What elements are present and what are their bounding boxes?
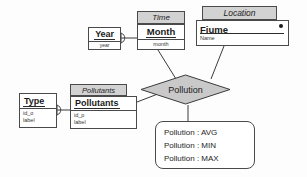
- note-box-pollution-aggregates[interactable]: Pollution : AVG Pollution : MIN Pollutio…: [155, 121, 255, 169]
- entity-type[interactable]: Type id_o label: [19, 93, 57, 128]
- note-line-min: Pollution : MIN: [164, 139, 254, 152]
- entity-pollutants-tab[interactable]: Pollutants: [70, 84, 127, 96]
- relationship-pollution[interactable]: Pollution: [140, 74, 231, 105]
- connector-type-pollutants: [57, 105, 70, 115]
- entity-month-attribute: month: [138, 40, 184, 47]
- entity-pollutants-title: Pollutants: [71, 97, 136, 109]
- er-diagram-canvas: Year year Time Month month Location Fium…: [0, 0, 307, 177]
- entity-month[interactable]: Month month: [137, 24, 185, 50]
- entity-year-attribute: year: [89, 42, 120, 49]
- entity-type-attribute-label: label: [20, 116, 56, 123]
- filled-dot-icon: [279, 24, 283, 28]
- entity-type-attribute-ido: id_o: [20, 109, 56, 116]
- entity-fiume-attribute: Name: [197, 34, 288, 41]
- entity-pollutants-attribute-label: label: [71, 118, 136, 125]
- entity-fiume[interactable]: Fiume Name: [196, 20, 289, 46]
- entity-fiume-tab[interactable]: Location: [202, 6, 277, 20]
- entity-type-title: Type: [20, 94, 56, 107]
- entity-year[interactable]: Year year: [88, 27, 121, 50]
- note-line-avg: Pollution : AVG: [164, 126, 254, 139]
- connector-year-month: [121, 33, 137, 43]
- entity-month-title: Month: [138, 25, 184, 38]
- relationship-pollution-label: Pollution: [140, 74, 231, 105]
- entity-fiume-title-row: Fiume: [197, 21, 288, 34]
- entity-pollutants-attribute-idp: id_p: [71, 111, 136, 118]
- entity-month-tab[interactable]: Time: [137, 11, 185, 24]
- note-line-max: Pollution : MAX: [164, 152, 254, 165]
- entity-pollutants[interactable]: Pollutants id_p label: [70, 96, 137, 129]
- entity-year-title: Year: [89, 28, 120, 40]
- entity-fiume-underline: [200, 33, 284, 34]
